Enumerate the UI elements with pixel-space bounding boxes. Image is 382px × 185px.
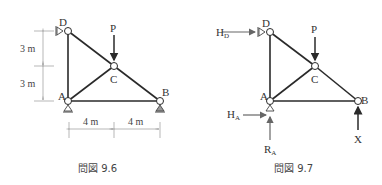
node-label-D: D bbox=[262, 17, 270, 29]
vertical-dimensions bbox=[34, 31, 54, 101]
roller-support-A bbox=[266, 105, 274, 111]
load-label-P: P bbox=[311, 23, 317, 35]
node-label-B: B bbox=[361, 94, 368, 106]
node-label-C: C bbox=[311, 73, 318, 85]
pin-support-A bbox=[63, 105, 73, 112]
figure-caption: 問図 9.7 bbox=[274, 163, 313, 174]
reaction-label-HD: HD bbox=[216, 26, 229, 40]
truss-diagrams: D C A B P 3 m 3 m 4 m 4 m 問図 9.6 bbox=[0, 0, 382, 185]
dim-label-v1: 3 m bbox=[20, 43, 36, 54]
figure-9-6: D C A B P 3 m 3 m 4 m 4 m 問図 9.6 bbox=[20, 16, 169, 174]
node-label-B: B bbox=[162, 86, 169, 98]
reaction-label-X: X bbox=[354, 133, 362, 145]
node-label-C: C bbox=[110, 73, 117, 85]
dim-label-h1: 4 m bbox=[83, 116, 99, 127]
reaction-label-RA: RA bbox=[264, 143, 276, 157]
node-label-A: A bbox=[58, 90, 66, 102]
node-label-D: D bbox=[59, 16, 67, 28]
figure-caption: 問図 9.6 bbox=[78, 163, 117, 174]
node-label-A: A bbox=[260, 90, 268, 102]
roller-support-B bbox=[155, 105, 165, 112]
reaction-label-HA: HA bbox=[227, 108, 240, 122]
load-label-P: P bbox=[110, 22, 116, 34]
figure-9-7: D C A B P HD HA RA X 問図 9.7 bbox=[216, 17, 368, 174]
dim-label-h2: 4 m bbox=[128, 116, 144, 127]
dim-label-v2: 3 m bbox=[20, 78, 36, 89]
